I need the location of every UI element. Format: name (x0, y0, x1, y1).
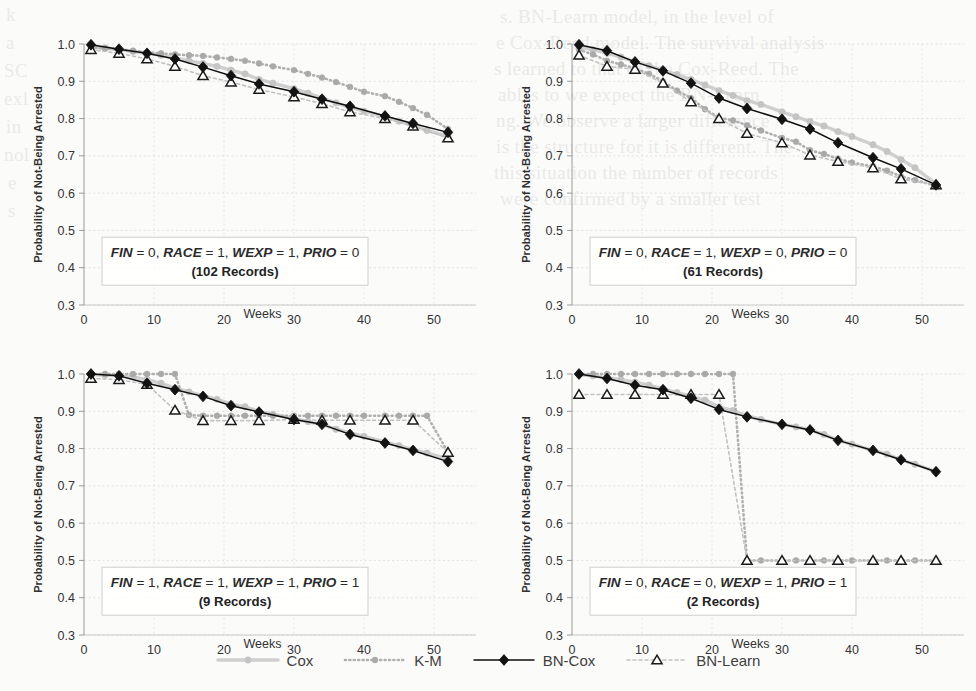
series-bn-learn (574, 390, 941, 565)
series-k-m (576, 371, 939, 563)
y-axis-label: Probability of Not-Being Arrested (32, 416, 44, 593)
panel-annotation-records: (9 Records) (199, 594, 272, 609)
y-tick-label: 0.5 (546, 554, 563, 568)
y-tick-label: 0.7 (546, 149, 563, 163)
y-tick-label: 0.5 (546, 224, 563, 238)
chart-grid: 1.00.90.80.70.60.50.40.301020304050Weeks… (0, 0, 976, 691)
legend-item-bn-cox: BN-Cox (472, 650, 596, 670)
legend-swatch-triangle-icon (625, 650, 689, 670)
x-tick-label: 50 (915, 313, 929, 327)
panel-annotation-records: (61 Records) (683, 264, 763, 279)
y-tick-label: 0.5 (58, 224, 75, 238)
x-tick-label: 10 (635, 313, 649, 327)
panel-annotation-records: (2 Records) (687, 594, 760, 609)
series-bn-learn (86, 45, 453, 142)
y-tick-label: 0.9 (546, 75, 563, 89)
legend-label: BN-Cox (543, 652, 596, 669)
x-tick-label: 30 (775, 313, 789, 327)
legend-row: CoxK-MBN-CoxBN-Learn (0, 640, 976, 680)
y-tick-label: 0.9 (546, 405, 563, 419)
y-tick-label: 0.4 (546, 261, 563, 275)
y-tick-label: 1.0 (58, 38, 75, 52)
chart-panel-bottom-left: 1.00.90.80.70.60.50.40.301020304050Weeks… (0, 330, 488, 662)
chart-panel-top-left: 1.00.90.80.70.60.50.40.301020304050Weeks… (0, 0, 488, 345)
y-tick-label: 1.0 (546, 38, 563, 52)
y-axis-label: Probability of Not-Being Arrested (520, 86, 532, 263)
chart-panel-top-right: 1.00.90.80.70.60.50.40.301020304050Weeks… (488, 0, 976, 345)
y-tick-label: 0.4 (546, 591, 563, 605)
panel-annotation-variables: FIN = 0, RACE = 1, WEXP = 1, PRIO = 0 (111, 245, 360, 260)
y-tick-label: 1.0 (58, 368, 75, 382)
x-tick-label: 0 (81, 313, 88, 327)
legend-label: K-M (414, 652, 442, 669)
y-tick-label: 1.0 (546, 368, 563, 382)
y-axis-label: Probability of Not-Being Arrested (520, 416, 532, 593)
x-axis-label: Weeks (244, 307, 282, 321)
panel-annotation-records: (102 Records) (191, 264, 278, 279)
y-tick-label: 0.3 (58, 299, 75, 313)
y-tick-label: 0.9 (58, 405, 75, 419)
panel-annotation-variables: FIN = 1, RACE = 1, WEXP = 1, PRIO = 1 (111, 575, 360, 590)
legend-swatch-circle-icon (216, 650, 280, 670)
y-axis-label: Probability of Not-Being Arrested (32, 86, 44, 263)
y-tick-label: 0.7 (546, 479, 563, 493)
y-tick-label: 0.6 (546, 517, 563, 531)
series-bn-cox (574, 39, 941, 190)
legend-label: BN-Learn (696, 652, 760, 669)
x-tick-label: 10 (147, 313, 161, 327)
chart-legend: CoxK-MBN-CoxBN-Learn (0, 640, 976, 680)
y-tick-label: 0.9 (58, 75, 75, 89)
y-tick-label: 0.6 (546, 187, 563, 201)
legend-swatch-diamond-icon (472, 650, 536, 670)
x-tick-label: 20 (217, 313, 231, 327)
series-cox (576, 44, 939, 187)
x-tick-label: 40 (357, 313, 371, 327)
x-axis-label: Weeks (732, 307, 770, 321)
y-tick-label: 0.8 (58, 112, 75, 126)
series-cox (576, 372, 939, 475)
legend-item-k-m: K-M (343, 650, 442, 670)
legend-item-cox: Cox (216, 650, 314, 670)
legend-item-bn-learn: BN-Learn (625, 650, 760, 670)
y-tick-label: 0.6 (58, 187, 75, 201)
legend-swatch-circle-icon (343, 650, 407, 670)
y-tick-label: 0.6 (58, 517, 75, 531)
y-tick-label: 0.7 (58, 149, 75, 163)
legend-label: Cox (287, 652, 314, 669)
x-tick-label: 20 (705, 313, 719, 327)
y-tick-label: 0.4 (58, 591, 75, 605)
series-bn-cox (574, 369, 941, 477)
y-tick-label: 0.7 (58, 479, 75, 493)
panel-annotation-variables: FIN = 0, RACE = 0, WEXP = 1, PRIO = 1 (599, 575, 848, 590)
series-k-m (576, 47, 939, 189)
x-tick-label: 50 (427, 313, 441, 327)
y-tick-label: 0.5 (58, 554, 75, 568)
y-tick-label: 0.8 (546, 112, 563, 126)
y-tick-label: 0.3 (546, 299, 563, 313)
x-tick-label: 0 (569, 313, 576, 327)
y-tick-label: 0.8 (58, 442, 75, 456)
x-tick-label: 40 (845, 313, 859, 327)
chart-panel-bottom-right: 1.00.90.80.70.60.50.40.301020304050Weeks… (488, 330, 976, 662)
panel-annotation-variables: FIN = 0, RACE = 1, WEXP = 0, PRIO = 0 (599, 245, 848, 260)
y-tick-label: 0.4 (58, 261, 75, 275)
y-tick-label: 0.8 (546, 442, 563, 456)
x-tick-label: 30 (287, 313, 301, 327)
